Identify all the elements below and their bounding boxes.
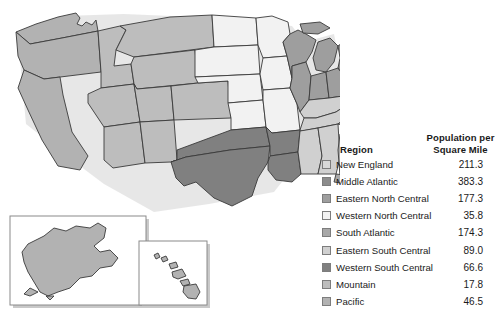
legend-region-value: 89.0 xyxy=(426,245,492,256)
legend-region-label: South Atlantic xyxy=(336,227,426,238)
legend-region-label: Middle Atlantic xyxy=(336,176,426,187)
legend-region-value: 17.8 xyxy=(426,279,492,290)
state-minnesota xyxy=(256,16,290,58)
state-iowa xyxy=(260,56,292,90)
us-map-svg xyxy=(0,0,340,313)
legend-rows: New England211.3Middle Atlantic383.3East… xyxy=(322,156,495,310)
legend-row: New England211.3 xyxy=(322,156,495,173)
legend-header-population-line2: Square Mile xyxy=(426,144,495,156)
alaska-inset xyxy=(10,216,149,308)
state-kansas xyxy=(228,100,266,130)
legend-region-value: 46.5 xyxy=(426,296,492,307)
legend-color-swatch xyxy=(322,211,331,220)
legend-color-swatch xyxy=(322,194,331,203)
state-new-york xyxy=(338,28,340,58)
legend-region-label: Western South Central xyxy=(336,262,426,273)
legend-header-row: Region Population per Square Mile xyxy=(322,118,495,156)
legend-region-value: 177.3 xyxy=(426,193,492,204)
legend-row: Western North Central35.8 xyxy=(322,207,495,224)
state-indiana xyxy=(309,72,329,100)
legend-color-swatch xyxy=(322,280,331,289)
legend-region-label: New England xyxy=(336,159,426,170)
legend-region-label: Eastern South Central xyxy=(336,245,426,256)
legend-row: Western South Central66.6 xyxy=(322,259,495,276)
legend-table: Region Population per Square Mile New En… xyxy=(322,118,495,310)
legend-region-label: Eastern North Central xyxy=(336,193,426,204)
legend-color-swatch xyxy=(322,228,331,237)
state-wyoming xyxy=(131,50,198,89)
legend-color-swatch xyxy=(322,177,331,186)
legend-row: Eastern South Central89.0 xyxy=(322,241,495,258)
state-south-dakota xyxy=(195,45,260,77)
legend-row: Pacific46.5 xyxy=(322,293,495,310)
legend-row: South Atlantic174.3 xyxy=(322,224,495,241)
legend-region-value: 35.8 xyxy=(426,210,492,221)
legend-row: Eastern North Central177.3 xyxy=(322,190,495,207)
state-north-dakota xyxy=(212,15,258,47)
hawaii-inset xyxy=(139,241,210,308)
legend-region-value: 211.3 xyxy=(426,159,492,170)
legend-color-swatch xyxy=(322,297,331,306)
state-ohio xyxy=(326,68,340,98)
state-arizona xyxy=(104,122,145,168)
legend-row: Mountain17.8 xyxy=(322,276,495,293)
legend-header-population: Population per Square Mile xyxy=(426,132,495,156)
legend-region-value: 383.3 xyxy=(426,176,492,187)
legend-row: Middle Atlantic383.3 xyxy=(322,173,495,190)
state-colorado xyxy=(171,81,231,120)
legend-region-label: Mountain xyxy=(336,279,426,290)
state-new-mexico xyxy=(140,120,177,163)
legend-region-label: Western North Central xyxy=(336,210,426,221)
legend-color-swatch xyxy=(322,246,331,255)
legend-region-label: Pacific xyxy=(336,296,426,307)
legend-header-population-line1: Population per xyxy=(426,132,495,144)
legend-color-swatch xyxy=(322,263,331,272)
census-region-choropleth-figure: Region Population per Square Mile New En… xyxy=(0,0,495,313)
legend-region-value: 174.3 xyxy=(426,227,492,238)
legend-header-region: Region xyxy=(322,144,426,156)
us-map xyxy=(0,0,340,313)
state-utah xyxy=(134,84,174,122)
state-mississippi xyxy=(298,128,322,174)
legend-region-value: 66.6 xyxy=(426,262,492,273)
legend-color-swatch xyxy=(322,160,331,169)
